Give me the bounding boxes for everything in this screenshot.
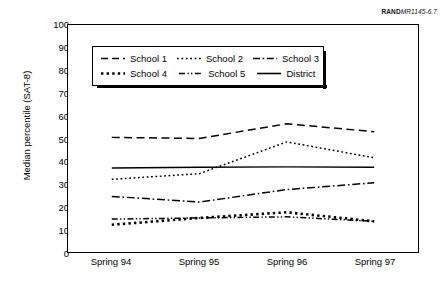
legend-swatch-school-5: [179, 69, 203, 78]
y-tick-label: 20: [43, 202, 69, 213]
series-line-school-2: [112, 142, 375, 179]
legend-row-1: School 1 School 2 School 3: [101, 51, 317, 66]
legend-label-school-3: School 3: [282, 53, 319, 64]
credit-report-id: MR1145-6.7: [401, 8, 437, 15]
series-line-district: [112, 167, 375, 168]
y-tick-label: 40: [43, 156, 69, 167]
series-line-school-4: [112, 212, 375, 224]
x-axis-label: Spring 94: [91, 256, 132, 267]
series-line-school-1: [112, 124, 375, 139]
legend-label-school-5: School 5: [208, 68, 245, 79]
series-line-school-3: [112, 183, 375, 202]
legend-item-school-2: School 2: [177, 53, 253, 64]
y-tick-label: 50: [43, 133, 69, 144]
y-tick-label: 0: [43, 248, 69, 259]
y-tick-label: 90: [43, 41, 69, 52]
y-axis-title: Median percentile (SAT-8): [21, 16, 32, 236]
figure-root: RANDMR1145-6.7 Median percentile (SAT-8)…: [0, 0, 443, 287]
figure-credit: RANDMR1145-6.7: [382, 8, 437, 15]
legend-label-school-2: School 2: [206, 53, 243, 64]
y-tick-label: 80: [43, 64, 69, 75]
legend-item-school-3: School 3: [253, 53, 317, 64]
legend-label-school-1: School 1: [130, 53, 167, 64]
credit-rand: RAND: [382, 8, 401, 15]
legend-label-district: District: [286, 68, 315, 79]
chart-legend: School 1 School 2 School 3 School 4 Scho…: [92, 46, 324, 86]
y-tick-label: 10: [43, 225, 69, 236]
legend-swatch-school-1: [101, 54, 125, 63]
y-tick-label: 60: [43, 110, 69, 121]
legend-swatch-school-4: [101, 69, 125, 78]
x-axis-label: Spring 96: [267, 256, 308, 267]
y-tick-label: 100: [43, 19, 69, 30]
legend-swatch-school-2: [177, 54, 201, 63]
legend-item-school-1: School 1: [101, 53, 177, 64]
legend-swatch-district: [257, 69, 281, 78]
legend-row-2: School 4 School 5 District: [101, 66, 317, 81]
legend-swatch-school-3: [253, 54, 277, 63]
y-tick-label: 30: [43, 179, 69, 190]
legend-item-school-5: School 5: [179, 68, 257, 79]
x-axis-label: Spring 97: [355, 256, 396, 267]
legend-item-district: District: [257, 68, 317, 79]
legend-item-school-4: School 4: [101, 68, 179, 79]
y-tick-label: 70: [43, 87, 69, 98]
legend-label-school-4: School 4: [130, 68, 167, 79]
x-axis-label: Spring 95: [179, 256, 220, 267]
